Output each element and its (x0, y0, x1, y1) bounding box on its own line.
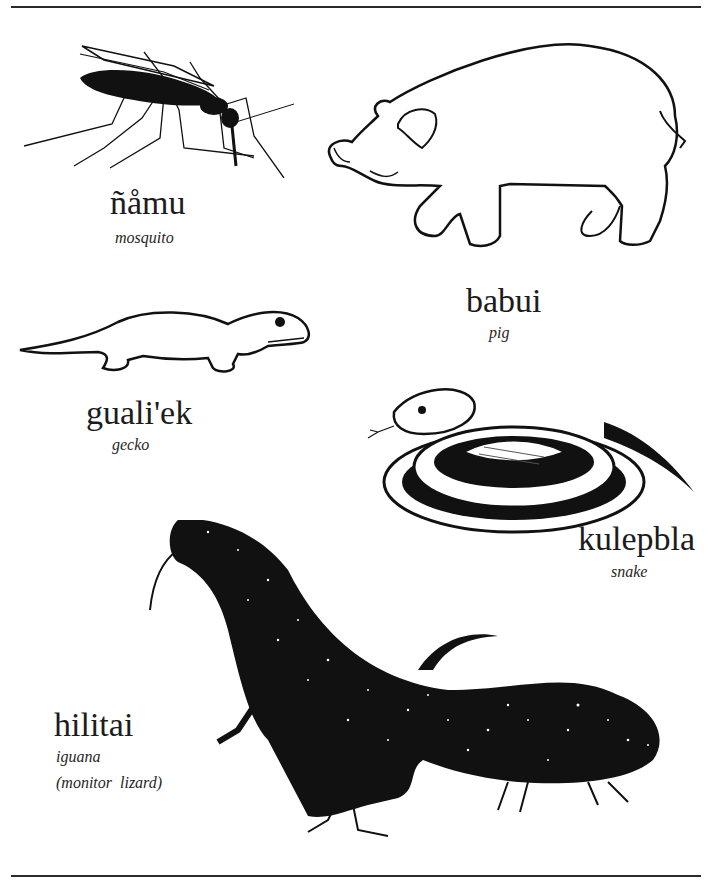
mosquito-illustration (14, 38, 304, 178)
mosquito-icon (14, 38, 304, 178)
top-rule (11, 6, 701, 8)
entry-gloss-pig: pig (489, 325, 509, 341)
entry-word-mosquito: ñåmu (110, 186, 186, 220)
bottom-rule (11, 875, 701, 877)
entry-word-iguana: hilitai (54, 708, 133, 742)
gecko-illustration (18, 298, 314, 386)
snake-icon (364, 372, 698, 540)
entry-word-gecko: guali'ek (86, 396, 192, 430)
entry-gloss-gecko: gecko (112, 437, 149, 453)
entry-gloss-iguana: iguana (56, 749, 100, 765)
gecko-icon (18, 298, 314, 386)
monitor-lizard-icon (148, 520, 688, 850)
entry-gloss-mosquito: mosquito (115, 230, 174, 246)
pig-icon (320, 36, 700, 256)
entry-word-pig: babui (466, 284, 542, 318)
snake-illustration (364, 372, 698, 540)
monitor-lizard-illustration (148, 520, 688, 850)
entry-gloss-iguana-extra: (monitor lizard) (56, 775, 162, 791)
pig-illustration (320, 36, 700, 256)
